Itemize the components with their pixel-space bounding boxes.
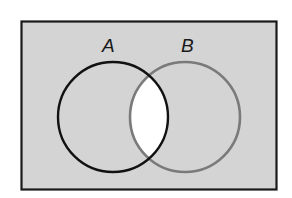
venn-diagram: A B xyxy=(0,0,292,198)
set-a-label: A xyxy=(101,35,115,56)
set-b-label: B xyxy=(181,35,194,56)
